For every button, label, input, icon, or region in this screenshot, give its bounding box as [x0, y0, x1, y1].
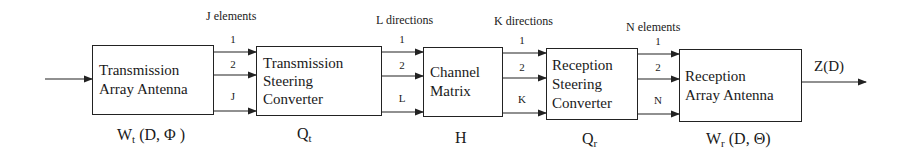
block-rx-array-antenna: Reception Array Antenna — [679, 49, 802, 122]
link-heading-l: L directions — [376, 13, 433, 28]
link-index: K — [515, 93, 529, 105]
symbol-h: H — [455, 129, 467, 147]
block-label: Reception — [552, 56, 637, 75]
link-index: 2 — [226, 58, 240, 70]
block-label: Steering — [263, 72, 381, 90]
link-index: 1 — [651, 35, 665, 47]
block-rx-steering-converter: Reception Steering Converter — [546, 48, 638, 120]
block-label: Array Antenna — [99, 80, 213, 99]
block-label: Steering — [552, 75, 637, 94]
symbol-qt: Qt — [297, 125, 312, 144]
block-tx-steering-converter: Transmission Steering Converter — [256, 46, 382, 116]
block-label: Converter — [263, 90, 381, 108]
block-label: Transmission — [99, 61, 213, 80]
link-index: 2 — [515, 61, 529, 73]
symbol-wr: Wr (D, Θ) — [706, 130, 771, 149]
link-heading-n: N elements — [626, 20, 680, 35]
link-heading-k: K directions — [494, 14, 553, 29]
block-label: Reception — [685, 67, 801, 86]
link-heading-j: J elements — [206, 9, 256, 24]
output-label: Z(D) — [814, 58, 844, 75]
block-tx-array-antenna: Transmission Array Antenna — [92, 45, 214, 115]
link-index: 2 — [651, 61, 665, 73]
block-channel-matrix: Channel Matrix — [423, 47, 503, 117]
link-index: 2 — [395, 59, 409, 71]
block-label: Converter — [552, 94, 637, 113]
link-index: 1 — [515, 34, 529, 46]
link-index: L — [395, 92, 409, 104]
link-index: J — [226, 90, 240, 102]
block-label: Array Antenna — [685, 86, 801, 105]
link-index: 1 — [226, 33, 240, 45]
block-label: Channel — [430, 63, 502, 82]
block-label: Transmission — [263, 54, 381, 72]
link-index: 1 — [395, 33, 409, 45]
symbol-qr: Qr — [582, 130, 597, 149]
symbol-wt: Wt (D, Φ ) — [117, 126, 185, 145]
block-label: Matrix — [430, 82, 502, 101]
link-index: N — [651, 94, 665, 106]
